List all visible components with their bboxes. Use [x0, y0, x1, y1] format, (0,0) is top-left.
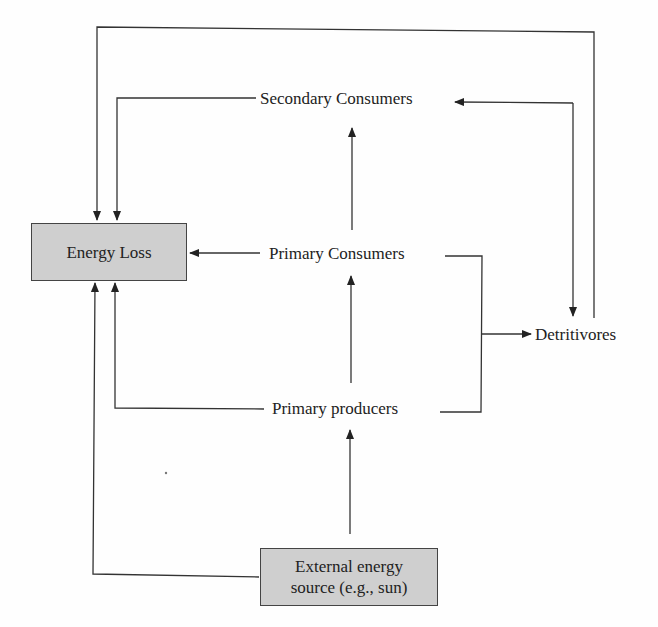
primary-consumers-label: Primary Consumers [269, 244, 405, 264]
external-energy-line2: source (e.g., sun) [291, 577, 408, 598]
energy-loss-label: Energy Loss [66, 242, 151, 263]
secondary-consumers-label: Secondary Consumers [260, 89, 413, 109]
external-energy-source-box: External energy source (e.g., sun) [260, 548, 438, 606]
energy-loss-box: Energy Loss [31, 223, 187, 281]
detritivores-label: Detritivores [535, 325, 616, 345]
energy-flow-diagram: Energy Loss Secondary Consumers Primary … [0, 0, 658, 627]
external-energy-line1: External energy [295, 556, 403, 577]
primary-producers-label: Primary producers [272, 399, 398, 419]
